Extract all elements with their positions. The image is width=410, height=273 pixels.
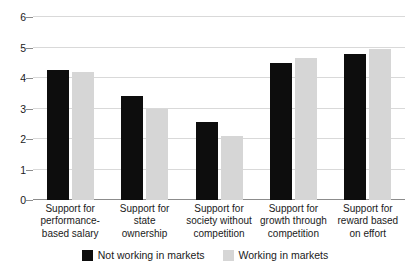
y-tick-label-1: 1 bbox=[8, 165, 26, 176]
x-axis-label-line: performance- bbox=[34, 215, 106, 227]
bar-group bbox=[256, 17, 330, 200]
bar-group bbox=[33, 17, 107, 200]
legend-label: Working in markets bbox=[239, 250, 329, 261]
x-axis-label-line: reward based bbox=[332, 215, 404, 227]
y-tick-mark-5 bbox=[26, 48, 33, 49]
x-axis-label-line: Support for state bbox=[108, 203, 180, 228]
x-axis-label-line: Support for bbox=[257, 203, 329, 215]
bar-group bbox=[331, 17, 405, 200]
y-tick-label-2: 2 bbox=[8, 134, 26, 145]
x-axis-label-line: on effort bbox=[332, 228, 404, 240]
x-axis-label-line: ownership bbox=[108, 228, 180, 240]
bar bbox=[196, 122, 218, 200]
x-axis-label: Support forsociety withoutcompetition bbox=[182, 203, 256, 240]
legend: Not working in marketsWorking in markets bbox=[0, 250, 410, 261]
bar bbox=[369, 49, 391, 200]
bar bbox=[121, 96, 143, 200]
y-tick-label-0: 0 bbox=[8, 195, 26, 206]
y-tick-label-3: 3 bbox=[8, 104, 26, 115]
y-tick-mark-6 bbox=[26, 17, 33, 18]
y-tick-mark-4 bbox=[26, 78, 33, 79]
bar-group bbox=[107, 17, 181, 200]
x-axis-category-labels: Support forperformance-based salarySuppo… bbox=[33, 203, 405, 240]
x-axis-label-line: Support for bbox=[183, 203, 255, 215]
x-axis-label: Support forperformance-based salary bbox=[33, 203, 107, 240]
legend-item[interactable]: Not working in markets bbox=[82, 250, 205, 261]
bar-group bbox=[182, 17, 256, 200]
x-axis-label-line: society without bbox=[183, 215, 255, 227]
bar bbox=[146, 109, 168, 201]
x-axis-label: Support forgrowth throughcompetition bbox=[256, 203, 330, 240]
y-tick-label-6: 6 bbox=[8, 12, 26, 23]
y-tick-mark-2 bbox=[26, 139, 33, 140]
bar bbox=[72, 72, 94, 200]
y-tick-mark-0 bbox=[26, 200, 33, 201]
legend-swatch-icon bbox=[223, 250, 234, 261]
bar bbox=[221, 136, 243, 200]
legend-item[interactable]: Working in markets bbox=[223, 250, 329, 261]
bar bbox=[47, 70, 69, 200]
x-axis-label: Support forreward basedon effort bbox=[331, 203, 405, 240]
bar bbox=[270, 63, 292, 200]
plot-area bbox=[33, 17, 405, 200]
y-tick-mark-3 bbox=[26, 109, 33, 110]
y-tick-label-4: 4 bbox=[8, 73, 26, 84]
grouped-bar-chart: 0123456 Support forperformance-based sal… bbox=[0, 0, 410, 273]
legend-swatch-icon bbox=[82, 250, 93, 261]
bar-groups bbox=[33, 17, 405, 200]
x-axis-label-line: growth through bbox=[257, 215, 329, 227]
x-axis-label-line: Support for bbox=[332, 203, 404, 215]
x-axis-label-line: Support for bbox=[34, 203, 106, 215]
x-axis-label-line: competition bbox=[183, 228, 255, 240]
bar bbox=[295, 58, 317, 200]
y-tick-mark-1 bbox=[26, 170, 33, 171]
bar bbox=[344, 54, 366, 200]
x-axis-label-line: based salary bbox=[34, 228, 106, 240]
x-axis-label-line: competition bbox=[257, 228, 329, 240]
legend-label: Not working in markets bbox=[98, 250, 205, 261]
x-axis-label: Support for stateownership bbox=[107, 203, 181, 240]
y-tick-label-5: 5 bbox=[8, 43, 26, 54]
